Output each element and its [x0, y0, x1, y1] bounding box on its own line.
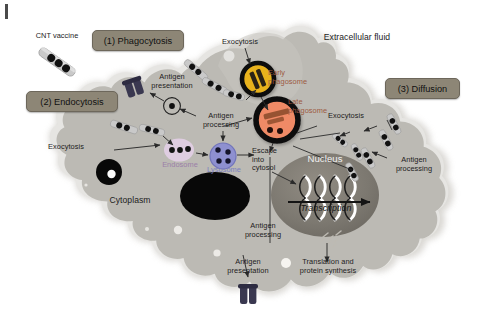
vesicle	[281, 258, 291, 268]
lysosome	[210, 143, 236, 169]
callout-phagocytosis[interactable]: (1) Phagocytosis	[92, 30, 184, 51]
vesicle	[145, 227, 149, 231]
vesicle	[224, 51, 235, 62]
callout-phagocytosis-label: (1) Phagocytosis	[104, 36, 172, 46]
diagram-svg	[0, 0, 480, 323]
nucleus	[271, 153, 379, 237]
mhc-receptor-icon-bottom	[238, 284, 258, 304]
vesicle	[174, 226, 182, 234]
vesicle	[213, 249, 220, 256]
callout-diffusion[interactable]: (3) Diffusion	[385, 78, 460, 99]
vesicle	[84, 183, 87, 186]
callout-endocytosis-label: (2) Endocytosis	[40, 97, 103, 107]
endosome	[164, 139, 194, 162]
cnt-vaccine-particle-free	[37, 46, 77, 78]
early-phagosome	[242, 63, 274, 95]
callout-diffusion-label: (3) Diffusion	[398, 84, 447, 94]
vacuole-large	[180, 172, 250, 220]
crop-tick-mark	[5, 4, 8, 19]
figure-canvas: (1) Phagocytosis (2) Endocytosis (3) Dif…	[0, 0, 480, 323]
vacuole-small-lumen	[107, 170, 115, 178]
late-phagosome	[256, 99, 298, 141]
callout-endocytosis[interactable]: (2) Endocytosis	[26, 91, 118, 112]
